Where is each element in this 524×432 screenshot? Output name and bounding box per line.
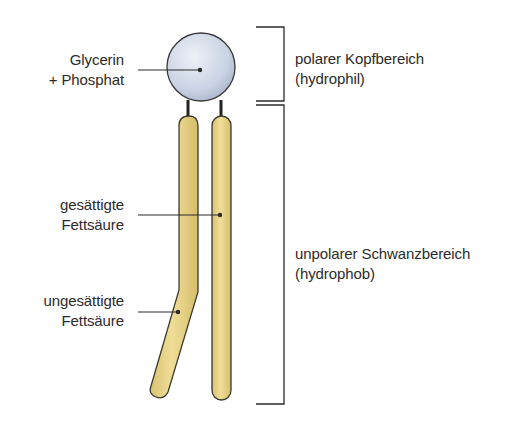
label-nonpolar-tail-region: unpolarer Schwanzbereich (hydrophob) xyxy=(295,244,520,284)
label-line: (hydrophob) xyxy=(295,264,520,284)
label-line: ungesättigte xyxy=(10,291,124,311)
saturated-fatty-acid-tail xyxy=(212,116,231,400)
label-unsaturated-fatty-acid: ungesättigte Fettsäure xyxy=(10,291,124,331)
tail-region-bracket xyxy=(256,105,284,404)
label-line: unpolarer Schwanzbereich xyxy=(295,244,520,264)
label-polar-head-region: polarer Kopfbereich (hydrophil) xyxy=(295,49,515,89)
label-line: Fettsäure xyxy=(10,311,124,331)
label-line: + Phosphat xyxy=(40,70,124,90)
label-line: gesättigte xyxy=(20,195,124,215)
label-line: polarer Kopfbereich xyxy=(295,49,515,69)
unsaturated-fatty-acid-tail xyxy=(150,116,198,398)
region-brackets xyxy=(256,27,284,404)
label-glycerin-phosphat: Glycerin + Phosphat xyxy=(40,50,124,90)
glycerin-phosphate-head xyxy=(167,33,235,101)
label-saturated-fatty-acid: gesättigte Fettsäure xyxy=(20,195,124,235)
label-line: Fettsäure xyxy=(20,215,124,235)
label-line: Glycerin xyxy=(40,50,124,70)
head-region-bracket xyxy=(256,27,284,101)
label-line: (hydrophil) xyxy=(295,69,515,89)
